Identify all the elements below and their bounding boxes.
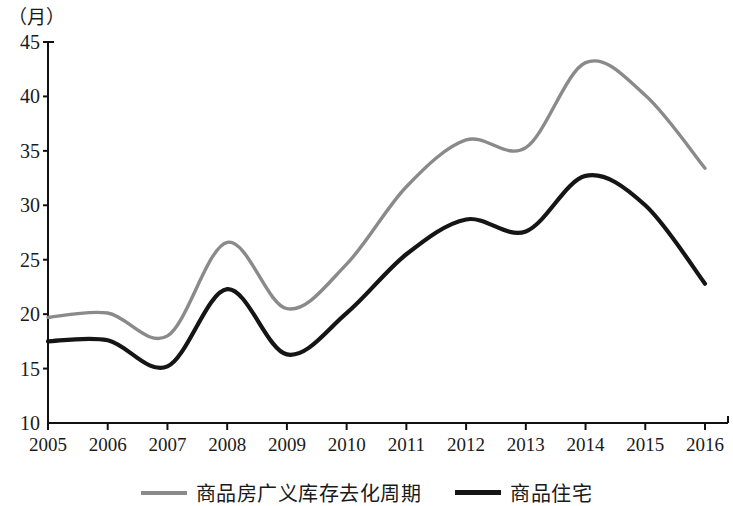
line-chart: （月） 4540353025201510 2005200620072008200…: [0, 0, 733, 506]
series-line-1: [48, 175, 705, 368]
legend-swatch-residential: [455, 490, 501, 495]
series-line-0: [48, 61, 705, 339]
legend-label-residential: 商品住宅: [510, 478, 592, 506]
plot-area: [0, 0, 733, 506]
legend-item-1: 商品住宅: [455, 478, 592, 506]
legend-swatch-broad-inventory-cycle: [141, 491, 187, 495]
chart-legend: 商品房广义库存去化周期 商品住宅: [0, 478, 733, 506]
legend-item-0: 商品房广义库存去化周期: [141, 478, 422, 506]
legend-label-broad-inventory-cycle: 商品房广义库存去化周期: [196, 478, 422, 506]
